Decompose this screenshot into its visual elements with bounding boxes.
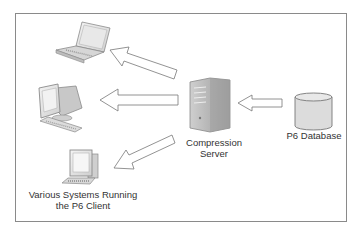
- server-tower-icon: [190, 78, 230, 132]
- arrow-server-to-crt: [100, 89, 178, 111]
- arrow-db-to-server: [238, 95, 282, 111]
- arrow-server-to-desktop: [114, 135, 175, 169]
- clients-label: Various Systems Running the P6 Client: [20, 189, 146, 211]
- crt-monitor-icon: [39, 84, 82, 132]
- server-label: Compression Server: [183, 137, 245, 159]
- database-label: P6 Database: [284, 130, 344, 141]
- server-label-line1: Compression: [183, 137, 245, 148]
- arrow-server-to-laptop: [110, 47, 177, 79]
- server-label-line2: Server: [183, 148, 245, 159]
- clients-label-line1: Various Systems Running: [20, 189, 146, 200]
- laptop-icon: [56, 22, 110, 63]
- desktop-pc-icon: [62, 150, 98, 184]
- database-cylinder-icon: [295, 93, 332, 130]
- database-label-text: P6 Database: [284, 130, 344, 141]
- clients-label-line2: the P6 Client: [20, 200, 146, 211]
